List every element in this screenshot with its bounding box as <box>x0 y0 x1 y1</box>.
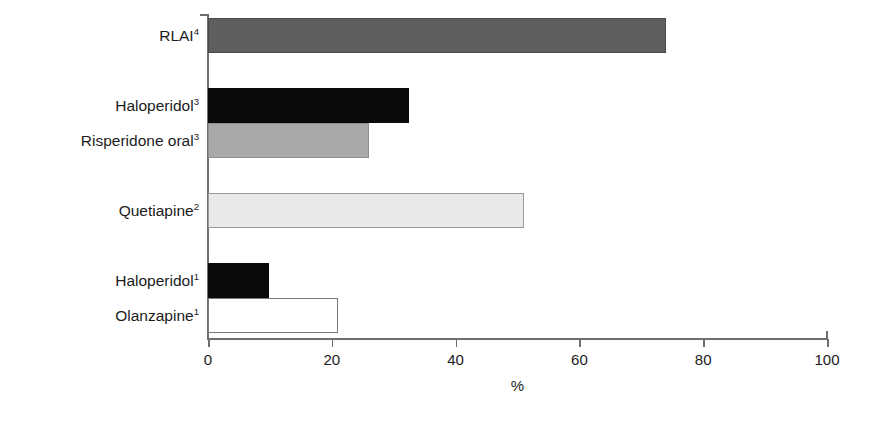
bar-olanzapine-1 <box>208 298 338 333</box>
bar-rlai-4 <box>208 18 666 53</box>
y-axis-top-tick <box>200 14 208 16</box>
x-tick-mark-20 <box>332 339 334 347</box>
x-tick-label-20: 20 <box>323 352 340 367</box>
x-tick-label-100: 100 <box>814 352 839 367</box>
category-label-superscript: 4 <box>194 25 199 36</box>
bar-chart: RLAI4Haloperidol3Risperidone oral3Quetia… <box>0 0 870 431</box>
x-tick-label-40: 40 <box>447 352 464 367</box>
category-label-haloperidol-3: Haloperidol3 <box>7 98 207 114</box>
category-label-quetiapine-2: Quetiapine2 <box>7 203 207 219</box>
category-label-superscript: 3 <box>194 95 199 106</box>
category-label-rlai-4: RLAI4 <box>7 28 207 44</box>
x-axis-line <box>207 338 828 340</box>
x-tick-mark-0 <box>208 339 210 347</box>
category-label-haloperidol-1: Haloperidol1 <box>7 273 207 289</box>
x-tick-label-80: 80 <box>695 352 712 367</box>
category-label-superscript: 1 <box>194 305 199 316</box>
x-tick-mark-40 <box>456 339 458 347</box>
x-tick-mark-100 <box>827 339 829 347</box>
x-tick-label-0: 0 <box>204 352 212 367</box>
x-tick-label-60: 60 <box>571 352 588 367</box>
plot-area <box>208 18 827 338</box>
bar-haloperidol-3 <box>208 88 409 123</box>
bar-haloperidol-1 <box>208 263 269 298</box>
bar-risperidone-oral-3 <box>208 123 369 158</box>
category-label-olanzapine-1: Olanzapine1 <box>7 308 207 324</box>
x-tick-mark-80 <box>703 339 705 347</box>
bar-quetiapine-2 <box>208 193 524 228</box>
category-label-superscript: 1 <box>194 270 199 281</box>
category-label-superscript: 2 <box>194 200 199 211</box>
category-label-superscript: 3 <box>194 130 199 141</box>
x-axis-title-text: % <box>511 377 524 394</box>
category-label-risperidone-oral-3: Risperidone oral3 <box>7 133 207 149</box>
x-tick-mark-60 <box>579 339 581 347</box>
x-axis-title: % <box>0 378 870 393</box>
category-label-column: RLAI4Haloperidol3Risperidone oral3Quetia… <box>0 18 207 338</box>
